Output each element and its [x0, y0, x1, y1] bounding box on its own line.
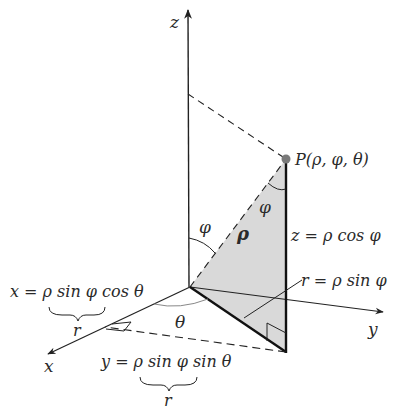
- y-brace-r-label: r: [164, 391, 173, 410]
- theta-label: θ: [175, 312, 185, 332]
- point-p-label: P(ρ, φ, θ): [294, 150, 369, 169]
- phi-label-origin: φ: [199, 217, 211, 237]
- dashed-z-projection: [188, 94, 286, 159]
- x-axis-label: x: [44, 356, 54, 376]
- spherical-coordinates-diagram: z y x P(ρ, φ, θ) φ φ θ ρ z = ρ cos φ r =…: [0, 0, 404, 412]
- shaded-triangle: [190, 159, 286, 352]
- point-p: [282, 155, 291, 164]
- y-equation-label: y = ρ sin φ sin θ: [100, 352, 232, 371]
- r-equation-label: r = ρ sin φ: [301, 271, 387, 290]
- z-axis: [188, 10, 189, 287]
- x-underbrace: [49, 307, 105, 321]
- rho-label: ρ: [236, 223, 250, 244]
- y-underbrace: [140, 377, 197, 391]
- phi-arc-origin: [189, 238, 215, 253]
- z-equation-label: z = ρ cos φ: [290, 226, 381, 245]
- x-equation-label: x = ρ sin φ cos θ: [10, 282, 144, 301]
- x-brace-r-label: r: [73, 321, 82, 340]
- y-axis-label: y: [367, 319, 378, 339]
- z-axis-label: z: [169, 12, 180, 32]
- phi-label-point: φ: [259, 197, 271, 217]
